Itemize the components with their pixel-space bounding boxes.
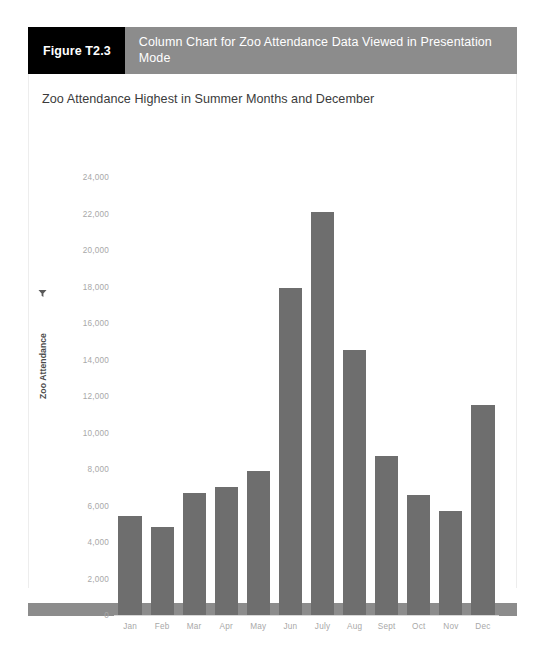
bar-column[interactable]: May: [242, 74, 274, 588]
bar-column[interactable]: Feb: [146, 74, 178, 588]
chart-panel: Zoo Attendance Highest in Summer Months …: [28, 74, 517, 588]
y-axis-tick-labels: 02,0004,0006,0008,00010,00012,00014,0001…: [57, 74, 109, 588]
bar[interactable]: [151, 527, 174, 615]
y-axis-tick-label: 18,000: [57, 282, 109, 291]
figure-number-label: Figure T2.3: [28, 27, 125, 74]
bar[interactable]: [215, 487, 238, 615]
figure-container: Figure T2.3 Column Chart for Zoo Attenda…: [28, 27, 517, 616]
bar-column[interactable]: July: [307, 74, 339, 588]
x-axis-tick-label: Dec: [459, 622, 507, 631]
bar-column[interactable]: Mar: [178, 74, 210, 588]
bar[interactable]: [343, 350, 366, 615]
x-axis-baseline: [114, 615, 499, 616]
bar[interactable]: [279, 288, 302, 615]
bar-column[interactable]: Sept: [371, 74, 403, 588]
bar[interactable]: [375, 456, 398, 615]
y-axis-tick-label: 14,000: [57, 355, 109, 364]
bar[interactable]: [471, 405, 494, 615]
figure-header: Figure T2.3 Column Chart for Zoo Attenda…: [28, 27, 517, 74]
y-axis-title: Zoo Attendance: [38, 333, 48, 399]
bar-column[interactable]: Dec: [467, 74, 499, 588]
bar[interactable]: [407, 495, 430, 615]
y-axis-tick-label: 24,000: [57, 173, 109, 182]
bar-series: JanFebMarAprMayJunJulyAugSeptOctNovDec: [114, 74, 499, 588]
bar-column[interactable]: Nov: [435, 74, 467, 588]
y-axis-tick-label: 0: [57, 611, 109, 620]
y-axis-tick-label: 12,000: [57, 392, 109, 401]
y-axis-tick-label: 2,000: [57, 574, 109, 583]
y-axis-title-group: Zoo Attendance: [35, 301, 51, 431]
y-axis-tick-label: 6,000: [57, 501, 109, 510]
bar[interactable]: [311, 212, 334, 615]
bar[interactable]: [439, 511, 462, 615]
figure-caption: Column Chart for Zoo Attendance Data Vie…: [125, 27, 517, 74]
y-axis-tick-label: 20,000: [57, 246, 109, 255]
bar[interactable]: [118, 516, 141, 615]
bar-column[interactable]: Apr: [210, 74, 242, 588]
y-axis-tick-label: 22,000: [57, 209, 109, 218]
bar[interactable]: [183, 493, 206, 615]
bar-column[interactable]: Jan: [114, 74, 146, 588]
filter-icon: [38, 289, 47, 298]
y-axis-tick-label: 4,000: [57, 538, 109, 547]
bar-column[interactable]: Aug: [339, 74, 371, 588]
y-axis-tick-label: 10,000: [57, 428, 109, 437]
bar-column[interactable]: Jun: [274, 74, 306, 588]
y-axis-tick-label: 8,000: [57, 465, 109, 474]
bar-column[interactable]: Oct: [403, 74, 435, 588]
y-axis-tick-label: 16,000: [57, 319, 109, 328]
bar[interactable]: [247, 471, 270, 615]
